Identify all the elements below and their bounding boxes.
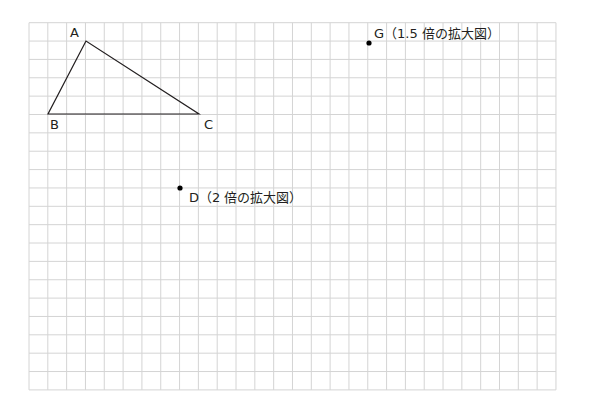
vertex-b-label: B — [50, 118, 59, 131]
point-d-dot — [177, 185, 182, 190]
point-d-label: D（2 倍の拡大図） — [189, 191, 302, 204]
point-g-dot — [366, 40, 371, 45]
point-g-label: G（1.5 倍の拡大図） — [374, 27, 500, 40]
grid-diagram — [0, 0, 590, 414]
vertex-c-label: C — [204, 118, 213, 131]
vertex-a-label: A — [70, 26, 79, 39]
grid-lines — [29, 23, 556, 390]
